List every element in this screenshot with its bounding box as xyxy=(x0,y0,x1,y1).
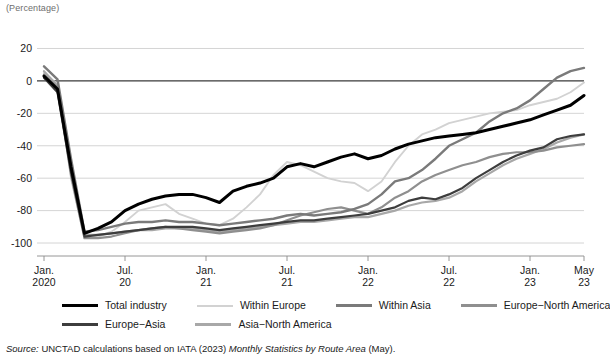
legend-swatch xyxy=(336,304,372,306)
x-axis-ticks xyxy=(44,256,584,261)
legend-swatch xyxy=(62,304,98,308)
y-tick-label: -20 xyxy=(17,107,32,119)
x-tick-label-month: May xyxy=(574,264,595,276)
y-tick-label: 20 xyxy=(20,42,32,54)
x-tick-label-year: 21 xyxy=(281,276,293,286)
x-tick-label-month: Jan. xyxy=(520,264,540,276)
legend-label: Europe−North America xyxy=(504,300,610,311)
source-text-italic: Monthly Statistics by Route Area xyxy=(229,343,366,354)
legend-item[interactable]: Within Europe xyxy=(197,300,306,311)
y-tick-label: -100 xyxy=(11,237,32,249)
y-tick-label: 0 xyxy=(26,75,32,87)
series-line xyxy=(44,73,584,238)
legend-label: Total industry xyxy=(105,300,167,311)
x-tick-label-month: Jan. xyxy=(358,264,378,276)
legend-item[interactable]: Within Asia xyxy=(336,300,431,311)
legend-item[interactable]: Total industry xyxy=(62,300,167,311)
legend-label: Asia−North America xyxy=(238,319,331,330)
x-tick-label-year: 22 xyxy=(362,276,374,286)
legend-row-1: Total industryWithin EuropeWithin AsiaEu… xyxy=(0,296,598,315)
series-line xyxy=(44,74,584,238)
legend-swatch xyxy=(197,305,233,307)
y-tick-label: -80 xyxy=(17,204,32,216)
y-tick-label: -40 xyxy=(17,140,32,152)
x-tick-label-month: Jan. xyxy=(196,264,216,276)
series-line xyxy=(44,66,584,231)
source-label: Source: xyxy=(6,343,39,354)
x-tick-label-month: Jul. xyxy=(279,264,295,276)
x-tick-label-month: Jul. xyxy=(117,264,133,276)
y-axis-labels: 200-20-40-60-80-100 xyxy=(11,42,32,249)
y-tick-label: -60 xyxy=(17,172,32,184)
source-text-part2: (May). xyxy=(368,343,395,354)
chart-svg: 200-20-40-60-80-100 Jan.2020Jul.20Jan.21… xyxy=(0,14,598,286)
x-tick-label-year: 22 xyxy=(443,276,455,286)
legend-swatch xyxy=(62,323,98,325)
unit-label: (Percentage) xyxy=(6,3,59,13)
legend-label: Within Europe xyxy=(240,300,306,311)
series-lines xyxy=(44,66,584,238)
legend-label: Europe−Asia xyxy=(105,319,165,330)
plot-area: 200-20-40-60-80-100 Jan.2020Jul.20Jan.21… xyxy=(0,14,598,286)
x-axis-labels: Jan.2020Jul.20Jan.21Jul.21Jan.22Jul.22Ja… xyxy=(32,264,594,286)
x-tick-label-year: 2020 xyxy=(32,276,56,286)
source-text-part1: UNCTAD calculations based on IATA (2023) xyxy=(41,343,226,354)
chart-legend: Total industryWithin EuropeWithin AsiaEu… xyxy=(0,296,598,338)
legend-item[interactable]: Asia−North America xyxy=(195,319,331,330)
legend-swatch xyxy=(195,323,231,325)
legend-item[interactable]: Europe−Asia xyxy=(62,319,165,330)
x-tick-label-month: Jul. xyxy=(441,264,457,276)
x-tick-label-year: 20 xyxy=(119,276,131,286)
legend-row-2: Europe−AsiaAsia−North America xyxy=(0,315,598,334)
x-tick-label-year: 21 xyxy=(200,276,212,286)
x-tick-label-year: 23 xyxy=(524,276,536,286)
x-tick-label-year: 23 xyxy=(578,276,590,286)
legend-swatch xyxy=(461,304,497,306)
legend-item[interactable]: Europe−North America xyxy=(461,300,610,311)
source-note: Source: UNCTAD calculations based on IAT… xyxy=(6,343,395,354)
x-tick-label-month: Jan. xyxy=(34,264,54,276)
legend-label: Within Asia xyxy=(379,300,431,311)
